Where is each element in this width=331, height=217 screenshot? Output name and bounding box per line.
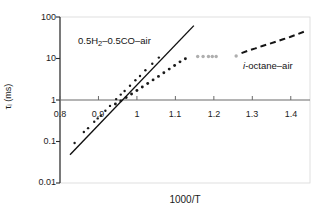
y-axis-title: τᵢ (ms) <box>4 75 13 119</box>
series-point-intermediate <box>119 99 122 102</box>
series-point-syngas <box>115 98 117 100</box>
series-point-intermediate <box>125 96 128 99</box>
series-point-intermediate <box>130 92 133 95</box>
series-label-octane: i-octane–air <box>243 61 293 71</box>
series-point-intermediate <box>173 64 176 67</box>
series-point-intermediate <box>114 103 117 106</box>
series-point-syngas <box>144 69 146 71</box>
series-point-faint <box>214 55 217 58</box>
x-tick-label-1.3: 1.3 <box>240 110 264 119</box>
series-label-syngas: 0.5H2–0.5CO–air <box>78 36 151 47</box>
x-tick-label-1.2: 1.2 <box>202 110 226 119</box>
x-tick-label-1.1: 1.1 <box>163 110 187 119</box>
series-point-syngas <box>73 142 75 144</box>
series-point-faint <box>211 55 214 58</box>
x-tick-label-1.4: 1.4 <box>279 110 303 119</box>
x-tick-label-0.9: 0.9 <box>86 110 110 119</box>
x-axis-title-text: 1000/T <box>169 194 200 205</box>
series-point-intermediate <box>179 60 182 63</box>
series-point-faint <box>207 55 210 58</box>
x-tick-label-1: 1 <box>125 110 149 119</box>
series-point-intermediate <box>157 75 160 78</box>
y-tick-label-0.1: 0.1 <box>28 137 56 146</box>
series-point-syngas <box>151 62 153 64</box>
series-point-intermediate <box>168 68 171 71</box>
series-point-syngas <box>93 120 95 122</box>
y-tick-label-10: 10 <box>32 54 56 63</box>
series-point-intermediate <box>141 86 144 89</box>
y-axis-title-text: τᵢ (ms) <box>3 84 13 109</box>
series-point-faint <box>201 55 204 58</box>
y-tick-label-0.01: 0.01 <box>24 178 56 187</box>
series-point-faint <box>234 54 237 57</box>
series-point-syngas <box>87 127 89 129</box>
series-point-syngas <box>158 56 160 58</box>
series-point-syngas <box>123 90 125 92</box>
series-point-intermediate <box>146 82 149 85</box>
chart-figure: 100 10 1 0.1 0.01 0.8 0.9 1 1.1 1.2 1.3 … <box>0 0 331 217</box>
syngas-label-suffix: –0.5CO–air <box>102 35 151 46</box>
series-point-syngas <box>129 85 131 87</box>
octane-label-suffix: -octane–air <box>245 60 293 71</box>
series-point-syngas <box>120 93 122 95</box>
series-point-syngas <box>83 131 85 133</box>
series-point-intermediate <box>135 89 138 92</box>
x-axis-title: 1000/T <box>60 194 310 205</box>
series-point-syngas <box>134 79 136 81</box>
series-point-intermediate <box>184 57 187 60</box>
series-line-octane-dashed <box>242 32 304 53</box>
y-tick-label-100: 100 <box>32 13 56 22</box>
series-point-intermediate <box>152 78 155 81</box>
series-point-faint <box>196 55 199 58</box>
series-point-syngas <box>139 75 141 77</box>
syngas-label-prefix: 0.5H <box>78 35 98 46</box>
series-point-syngas <box>109 105 111 107</box>
series-point-intermediate <box>162 71 165 74</box>
y-tick-label-1: 1 <box>32 96 56 105</box>
x-tick-label-0.8: 0.8 <box>48 110 72 119</box>
